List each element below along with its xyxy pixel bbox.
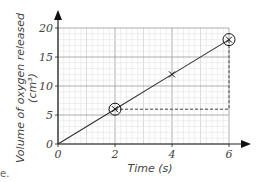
svg-text:15: 15 — [39, 51, 53, 64]
plot-series — [58, 34, 235, 144]
axes — [54, 10, 251, 148]
svg-text:(cm³): (cm³) — [26, 73, 39, 103]
chart: 024605101520 Time (s) Volume of oxygen r… — [0, 0, 258, 182]
svg-text:5: 5 — [46, 109, 53, 122]
svg-text:4: 4 — [168, 148, 176, 161]
svg-text:20: 20 — [38, 22, 53, 35]
grid — [58, 28, 229, 144]
svg-text:0: 0 — [46, 138, 53, 151]
svg-text:2: 2 — [111, 148, 119, 161]
svg-text:0: 0 — [55, 148, 62, 161]
cropped-text-fragment: e. — [0, 168, 9, 179]
svg-text:6: 6 — [226, 148, 233, 161]
svg-text:10: 10 — [39, 80, 53, 93]
x-axis-label: Time (s) — [127, 162, 172, 175]
y-axis-label: Volume of oxygen released (cm³) — [14, 12, 39, 163]
